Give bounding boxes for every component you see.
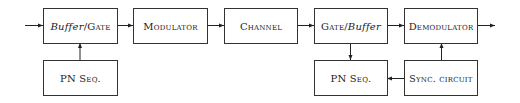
gate-label: Gate <box>87 21 110 32</box>
pn-seq-label: PN Seq. <box>60 73 101 84</box>
sync-circuit-label: Sync. circuit <box>409 73 472 84</box>
channel-block: Channel <box>224 8 298 44</box>
sync-circuit-block: Sync. circuit <box>404 60 478 96</box>
demodulator-block: Demodulator <box>404 8 478 44</box>
buffer-gate-block: Buffer/Gate <box>43 8 118 44</box>
gate-buffer-block: Gate/Buffer <box>314 8 388 44</box>
pn-seq-label: PN Seq. <box>331 73 372 84</box>
buffer-label: Buffer <box>348 21 381 32</box>
modulator-label: Modulator <box>143 21 197 32</box>
modulator-block: Modulator <box>133 8 208 44</box>
pn-seq-rx-block: PN Seq. <box>314 60 388 96</box>
channel-label: Channel <box>240 21 282 32</box>
gate-label: Gate <box>321 21 344 32</box>
buffer-label: Buffer <box>51 21 84 32</box>
pn-seq-tx-block: PN Seq. <box>43 60 118 96</box>
demodulator-label: Demodulator <box>409 21 474 32</box>
